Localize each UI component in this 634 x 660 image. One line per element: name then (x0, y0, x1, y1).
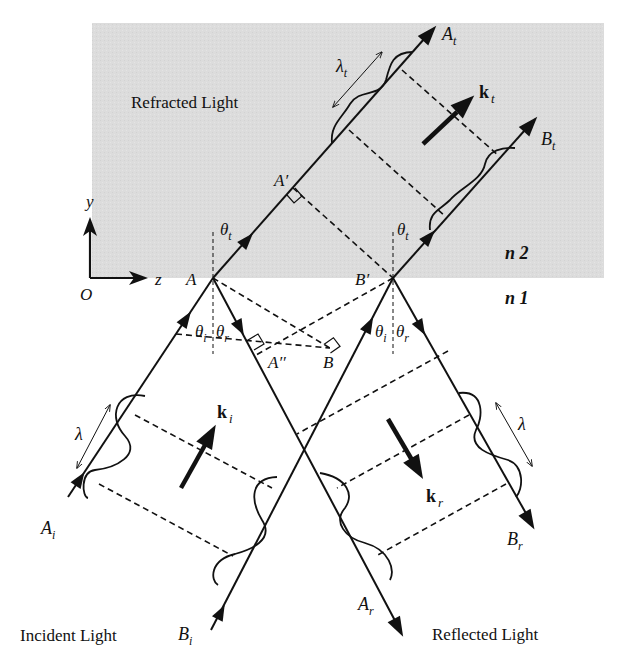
incident-ray-b-arrow (212, 602, 230, 622)
incident-wave-b (213, 477, 277, 585)
ray-label-a-r: Ar (357, 594, 374, 618)
caption-incident-light: Incident Light (20, 626, 117, 645)
reflected-ray-b (393, 278, 532, 524)
incident-wavefront-3 (99, 484, 233, 556)
wave-vector-label-k-r: kr (426, 486, 444, 510)
wavelength-reflected-marker (496, 403, 532, 466)
upper-medium-region (92, 23, 604, 278)
reflected-wave-b (459, 393, 521, 497)
caption-refracted-light: Refracted Light (131, 93, 238, 112)
angle-label-theta-i-b: θi (375, 322, 387, 345)
medium-label-n1: n 1 (505, 288, 529, 308)
wavelength-label-reflected: λ (517, 414, 526, 434)
reflected-ray-a-arrow (231, 318, 249, 338)
reflected-ray-b-arrow (412, 318, 430, 338)
axis-label-y: y (84, 192, 94, 211)
point-label-a-double-prime: A′′ (267, 353, 286, 372)
k-reflected-arrow (388, 419, 431, 484)
ray-label-a-i: Ai (40, 518, 55, 542)
reflected-ray-a-end-arrow (388, 616, 410, 640)
point-label-b-prime: B′ (355, 270, 369, 289)
ray-label-b-i: Bi (178, 624, 192, 648)
medium-label-n2: n 2 (505, 243, 529, 263)
reflected-wave-a (320, 473, 392, 580)
angle-label-theta-r-b: θr (396, 322, 409, 345)
point-label-a-prime: A′ (273, 171, 288, 190)
reflected-ray-b-end-arrow (518, 509, 540, 533)
wave-vector-label-k-i: ki (217, 402, 233, 426)
incident-ray-a (68, 278, 213, 497)
caption-reflected-light: Reflected Light (432, 625, 538, 644)
reflected-wavefront-2 (337, 415, 469, 488)
wavelength-label-incident: λ (74, 424, 83, 444)
point-label-b: B (323, 353, 334, 372)
ray-label-b-r: Br (507, 529, 523, 553)
incident-ray-a-arrow-mid (177, 308, 196, 329)
k-incident-arrow (181, 420, 224, 488)
axis-label-origin: O (80, 285, 92, 304)
reflection-refraction-diagram: Refracted Light Incident Light Reflected… (0, 0, 634, 660)
point-label-a: A (185, 270, 197, 289)
axis-label-z: z (154, 270, 162, 289)
incident-wave-a (84, 395, 145, 498)
angle-label-theta-r-a: θr (216, 322, 229, 345)
incident-ray-a-arrow (71, 469, 90, 489)
angle-label-theta-i-a: θi (195, 322, 207, 345)
